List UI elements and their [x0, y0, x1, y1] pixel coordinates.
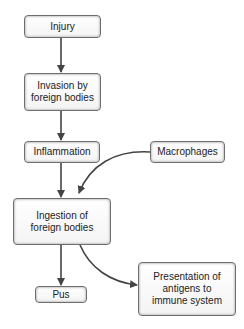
node-label: Inflammation	[33, 146, 90, 158]
arrow-ingestion-to-presentation	[80, 245, 137, 285]
node-label: Presentation of antigens to immune syste…	[152, 271, 222, 307]
node-label: Injury	[50, 21, 74, 33]
node-label-line: immune system	[152, 295, 222, 306]
node-label-line: foreign bodies	[31, 222, 94, 233]
node-label: Invasion by foreign bodies	[31, 80, 94, 104]
node-label-line: Ingestion of	[36, 210, 88, 221]
node-label: Pus	[52, 289, 69, 301]
node-label-line: foreign bodies	[31, 92, 94, 103]
node-inflammation: Inflammation	[24, 141, 100, 163]
node-pus: Pus	[35, 286, 87, 303]
node-label: Ingestion of foreign bodies	[31, 210, 94, 234]
node-label: Macrophages	[157, 146, 218, 158]
node-injury: Injury	[24, 15, 101, 38]
node-label-line: Presentation of	[153, 271, 220, 282]
node-invasion: Invasion by foreign bodies	[24, 73, 101, 111]
node-presentation: Presentation of antigens to immune syste…	[138, 262, 236, 316]
node-label-line: Invasion by	[37, 80, 88, 91]
node-ingestion: Ingestion of foreign bodies	[13, 198, 111, 245]
node-macrophages: Macrophages	[150, 141, 225, 163]
node-label-line: antigens to	[163, 283, 212, 294]
